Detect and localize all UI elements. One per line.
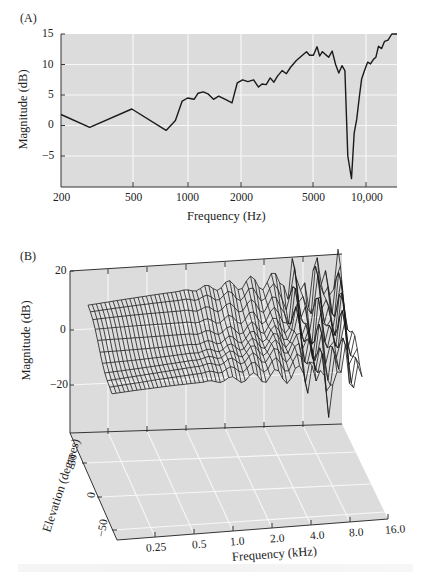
panel-a-xlabel: Frequency (Hz) [187,209,266,224]
panel-b-xtick: 1.0 [230,535,245,548]
panel-a-xtick: 2000 [230,191,253,203]
panel-b-xtick: 0.25 [146,540,167,553]
panel-b-xtick: 4.0 [310,529,325,542]
panel-a-xtick: 1000 [176,191,199,203]
panel-a-ytick: 0 [48,118,54,130]
panel-b-zlabel: Magnitude (dB) [19,300,34,380]
panel-a-ytick: −5 [42,149,54,161]
panel-a-ytick: 15 [42,27,54,39]
figure-caption-faint [18,564,413,572]
panel-b-ztick: 20 [55,264,67,276]
panel-b-xtick: 8.0 [349,526,364,539]
panel-a-xtick: 200 [53,191,70,203]
panel-a-xtick: 500 [125,191,142,203]
panel-b-ztick: −20 [50,378,68,390]
panel-b-label: (B) [20,249,36,264]
panel-b-xtick: 2.0 [270,532,285,545]
panel-b-xtick: 0.5 [192,538,207,551]
panel-b-ztick: 0 [60,323,66,335]
panel-a-ytick: 5 [48,88,54,100]
panel-a-ytick: 10 [42,58,54,70]
panel-a-ylabel: Magnitude (dB) [16,69,31,149]
panel-a-xtick: 5000 [302,191,325,203]
panel-a-xtick: 10,000 [351,191,383,203]
panel-b-xtick: 16.0 [385,522,406,535]
